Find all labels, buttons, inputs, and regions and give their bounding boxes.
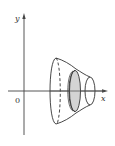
diagram-canvas: y x 0 <box>0 0 115 146</box>
y-axis <box>22 13 25 135</box>
y-axis-label: y <box>14 14 20 23</box>
solid-of-revolution-figure: y x 0 <box>0 0 115 146</box>
x-axis-label: x <box>101 94 106 103</box>
y-axis-arrow-icon <box>22 13 25 19</box>
origin-label: 0 <box>15 96 20 105</box>
